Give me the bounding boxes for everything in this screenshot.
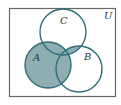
venn-diagram: C A B U: [0, 0, 121, 105]
label-universe: U: [104, 10, 113, 21]
label-a: A: [32, 52, 40, 63]
label-b: B: [83, 51, 91, 62]
label-c: C: [60, 15, 68, 26]
